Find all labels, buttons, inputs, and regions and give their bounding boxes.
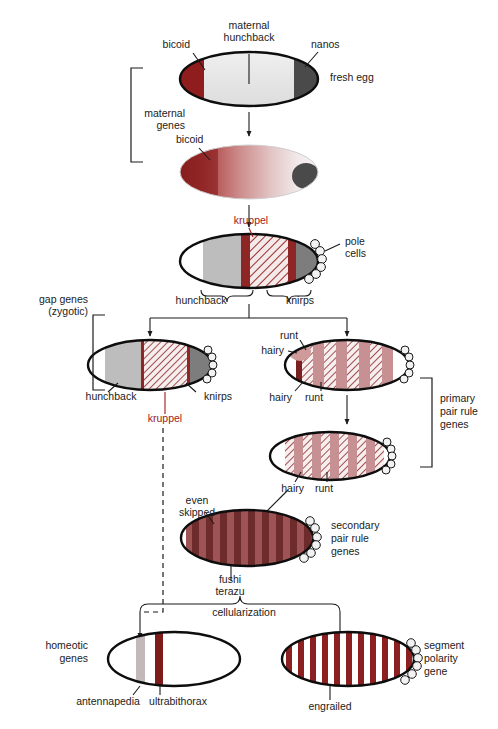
label-bicoid-gradient: bicoid (176, 133, 203, 145)
bracket-gap-genes-label: gap genes (zygotic) (6, 293, 88, 317)
label-hairy-primary2: hairy (260, 482, 304, 494)
label-segment-polarity-gene: segment polarity gene (424, 639, 494, 678)
label-ultrabithorax: ultrabithorax (134, 695, 222, 707)
label-nanos: nanos (311, 38, 340, 50)
label-homeotic-genes: homeotic genes (14, 639, 88, 665)
label-even-skipped: even skipped (166, 494, 228, 518)
label-knirps-gap1: knirps (262, 294, 338, 306)
label-runt-top: runt (280, 329, 298, 341)
label-hairy-top: hairy (240, 344, 284, 356)
label-bicoid-egg: bicoid (120, 38, 190, 50)
label-engrailed: engrailed (294, 700, 366, 712)
label-hairy-bottom: hairy (248, 391, 292, 403)
label-fresh-egg: fresh egg (330, 71, 374, 83)
label-fushi-terazu: fushi terazu (198, 573, 262, 597)
label-kruppel-gap2: kruppel (131, 412, 199, 424)
label-pole-cells: pole cells (345, 235, 391, 259)
embryo-gap-genes-1 (180, 232, 326, 292)
label-maternal-hunchback: maternal hunchback (206, 19, 292, 43)
embryo-homeotic (108, 630, 242, 690)
label-cellularization: cellularization (196, 606, 292, 618)
bracket-maternal-genes-label: maternal genes (99, 107, 185, 131)
label-hunchback-gap2: hunchback (68, 390, 154, 402)
label-knirps-gap2: knirps (186, 390, 250, 402)
embryo-primary-pair-rule-2 (268, 430, 396, 484)
diagram-graphics (0, 0, 498, 729)
embryo-secondary-pair-rule (181, 509, 321, 569)
embryo-fresh-egg (178, 50, 322, 110)
label-runt-bottom: runt (305, 391, 323, 403)
label-hunchback-gap1: hunchback (156, 294, 246, 306)
embryo-gap-genes-2 (88, 338, 217, 394)
diagram-canvas: maternal hunchback bicoid nanos fresh eg… (0, 0, 498, 729)
embryo-segment-polarity (282, 630, 422, 690)
label-kruppel-gap1: kruppel (208, 214, 294, 226)
embryo-bicoid-gradient (178, 143, 320, 203)
label-runt-primary2: runt (315, 482, 333, 494)
bracket-primary-pair-rule-label: primary pair rule genes (440, 392, 498, 431)
label-secondary-pair-rule: secondary pair rule genes (331, 519, 403, 558)
